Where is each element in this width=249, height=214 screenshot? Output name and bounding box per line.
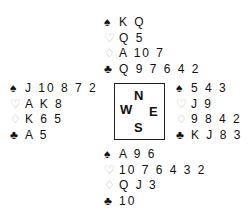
heart-icon: ♡	[104, 163, 119, 179]
compass-east: E	[149, 104, 158, 119]
east-hand: ♠5 4 3 ♡J 9 ♢9 8 4 2 ♣K J 8 3	[176, 81, 242, 143]
compass-box: N W E S	[114, 83, 165, 140]
west-spades: ♠J 10 8 7 2	[10, 81, 98, 97]
east-diamonds: ♢9 8 4 2	[176, 112, 242, 128]
north-spades: ♠K Q	[104, 15, 200, 31]
heart-icon: ♡	[10, 97, 25, 113]
north-clubs: ♣Q 9 7 6 4 2	[104, 62, 200, 78]
club-icon: ♣	[176, 128, 191, 144]
compass-north: N	[134, 88, 143, 103]
spade-icon: ♠	[104, 147, 119, 163]
diamond-icon: ♢	[176, 112, 191, 128]
compass-south: S	[134, 120, 143, 135]
west-diamonds: ♢K 6 5	[10, 112, 98, 128]
west-hearts: ♡A K 8	[10, 97, 98, 113]
heart-icon: ♡	[104, 31, 119, 47]
diamond-icon: ♢	[104, 46, 119, 62]
heart-icon: ♡	[176, 97, 191, 113]
north-diamonds: ♢A 10 7	[104, 46, 200, 62]
diamond-icon: ♢	[10, 112, 25, 128]
west-hand: ♠J 10 8 7 2 ♡A K 8 ♢K 6 5 ♣A 5	[10, 81, 98, 143]
spade-icon: ♠	[104, 15, 119, 31]
south-diamonds: ♢Q J 3	[104, 178, 206, 194]
diamond-icon: ♢	[104, 178, 119, 194]
south-clubs: ♣10	[104, 194, 206, 210]
club-icon: ♣	[104, 62, 119, 78]
north-hand: ♠K Q ♡Q 5 ♢A 10 7 ♣Q 9 7 6 4 2	[104, 15, 200, 77]
west-clubs: ♣A 5	[10, 128, 98, 144]
spade-icon: ♠	[10, 81, 25, 97]
east-hearts: ♡J 9	[176, 97, 242, 113]
south-spades: ♠A 9 6	[104, 147, 206, 163]
compass-west: W	[120, 102, 132, 117]
east-clubs: ♣K J 8 3	[176, 128, 242, 144]
south-hearts: ♡10 7 6 4 3 2	[104, 163, 206, 179]
south-hand: ♠A 9 6 ♡10 7 6 4 3 2 ♢Q J 3 ♣10	[104, 147, 206, 209]
east-spades: ♠5 4 3	[176, 81, 242, 97]
club-icon: ♣	[10, 128, 25, 144]
club-icon: ♣	[104, 194, 119, 210]
spade-icon: ♠	[176, 81, 191, 97]
north-hearts: ♡Q 5	[104, 31, 200, 47]
